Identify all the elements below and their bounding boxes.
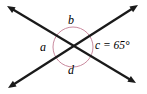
angle-label-b: b xyxy=(68,14,74,26)
angle-label-d: d xyxy=(68,64,74,76)
angle-label-c: c = 65° xyxy=(95,40,130,52)
angle-diagram: a b c = 65° d xyxy=(0,0,147,94)
angle-label-a: a xyxy=(40,41,46,53)
